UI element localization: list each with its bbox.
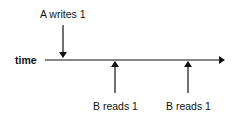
time-axis-label: time xyxy=(15,55,37,66)
read-event-label-1: B reads 1 xyxy=(93,101,138,112)
read-event-label-2: B reads 1 xyxy=(166,101,211,112)
write-event-label: A writes 1 xyxy=(40,9,86,20)
